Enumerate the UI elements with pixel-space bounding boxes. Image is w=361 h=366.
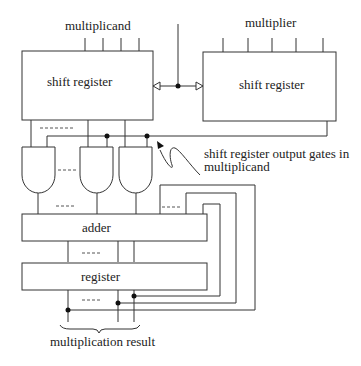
multiplicand-label: multiplicand bbox=[65, 18, 131, 33]
feedback-loops bbox=[68, 185, 255, 310]
clock-arrow-right-icon bbox=[196, 82, 203, 90]
junction-dot bbox=[176, 84, 181, 89]
register-output-lines bbox=[66, 290, 137, 322]
multiplicand-input-lines bbox=[85, 38, 139, 51]
clock-arrow-left-icon bbox=[153, 82, 160, 90]
adder-register-lines bbox=[68, 241, 134, 262]
and-gate-1 bbox=[22, 147, 55, 193]
multiplier-label: multiplier bbox=[245, 15, 297, 30]
result-label: multiplication result bbox=[50, 334, 155, 349]
adder-label: adder bbox=[82, 220, 112, 235]
annotation-text-line2: multiplicand bbox=[204, 159, 270, 174]
and-gate-3 bbox=[119, 147, 152, 193]
multiplier-circuit-diagram: multiplicand shift register multiplier s… bbox=[0, 0, 361, 366]
junction-dot bbox=[116, 301, 121, 306]
register-label: register bbox=[81, 269, 121, 284]
adder-box bbox=[22, 214, 207, 241]
junction-dot bbox=[66, 308, 71, 313]
multiplicand-register-label: shift register bbox=[47, 74, 113, 89]
multiplier-enable-line bbox=[47, 121, 327, 147]
and-gate-2 bbox=[80, 147, 113, 193]
gate-output-lines bbox=[38, 193, 136, 214]
junction-dot bbox=[145, 134, 150, 139]
annotation-pointer bbox=[157, 141, 200, 175]
multiplicand-output-lines bbox=[31, 120, 125, 147]
junction-dot bbox=[105, 134, 110, 139]
shift-clock-line bbox=[153, 24, 203, 90]
arrowhead-icon bbox=[157, 141, 164, 149]
junction-dot bbox=[132, 294, 137, 299]
multiplier-input-lines bbox=[223, 38, 323, 52]
multiplier-register-label: shift register bbox=[239, 77, 305, 92]
result-brace bbox=[60, 325, 140, 333]
